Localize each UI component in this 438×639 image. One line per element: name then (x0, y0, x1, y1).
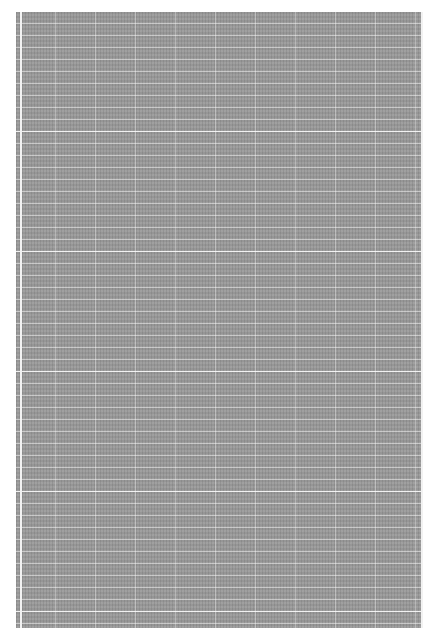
document-page (16, 12, 423, 628)
page-right-border (421, 12, 423, 628)
page-left-border (20, 12, 22, 628)
